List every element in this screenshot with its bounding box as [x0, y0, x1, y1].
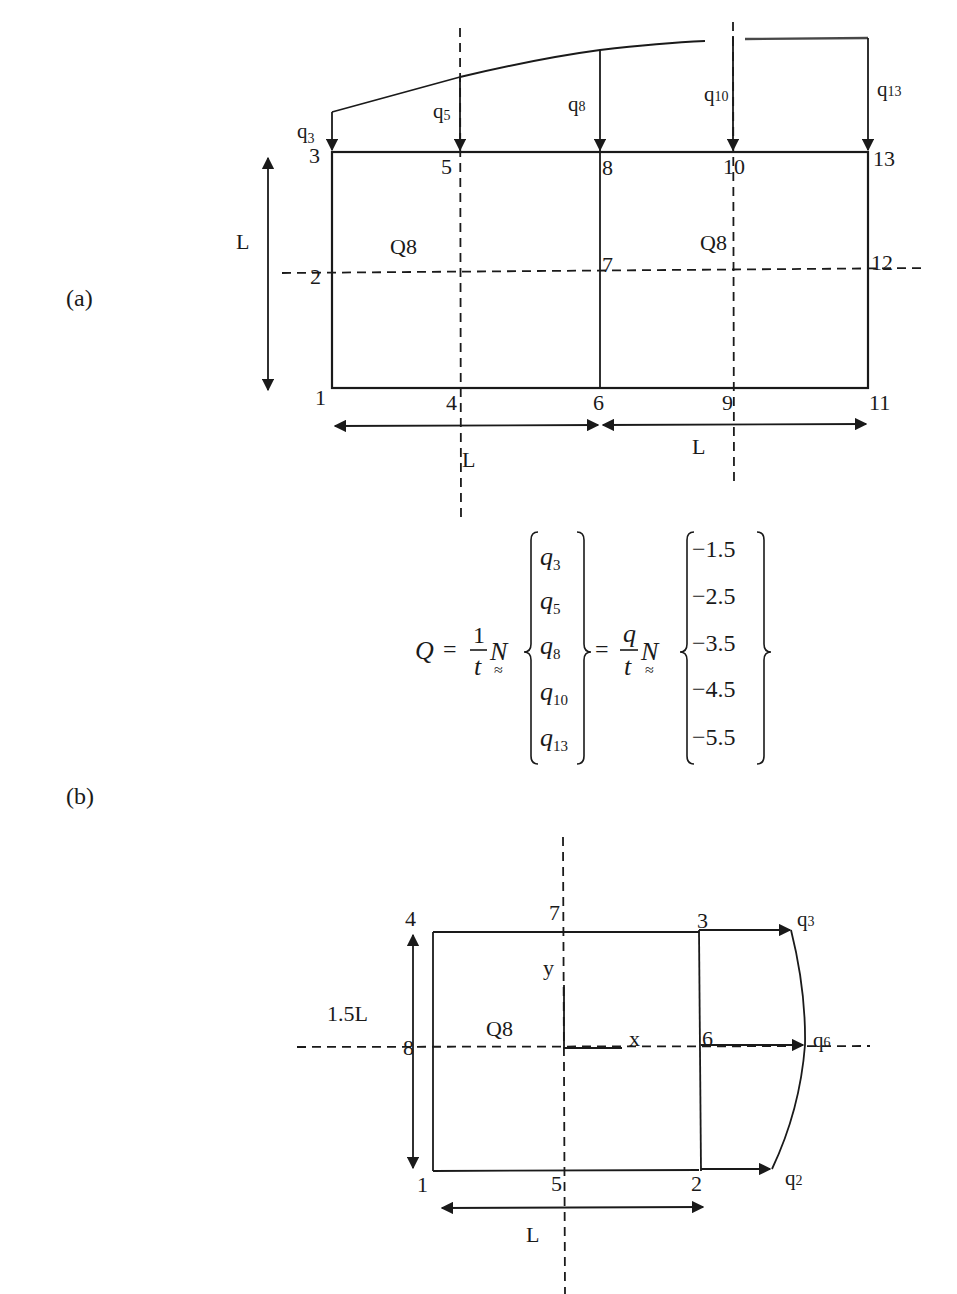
element-label-b: Q8 [486, 1016, 513, 1041]
equation-tensor-mark-1: ≈ [494, 661, 503, 678]
equation-frac1-numerator: 1 [473, 622, 485, 648]
element-label-right: Q8 [700, 230, 727, 255]
node-label-1: 1 [315, 385, 326, 410]
element-edge-right-b [699, 930, 701, 1171]
vector2-right-brace [757, 532, 771, 764]
part-b-label: (b) [66, 783, 94, 809]
dimension-arrow-width-right-a [603, 424, 866, 425]
dimension-label-height-b: 1.5L [327, 1001, 368, 1026]
node-label-6: 6 [593, 390, 604, 415]
vector1-entry: q8 [540, 631, 561, 662]
dimension-arrow-width-b [442, 1207, 703, 1208]
axis-label-y: y [543, 955, 554, 980]
vector1-entry: q10 [540, 677, 568, 708]
node-label-5-b: 5 [551, 1171, 562, 1196]
node-label-3-b: 3 [697, 908, 708, 933]
node-label-7-b: 7 [549, 900, 560, 925]
part-a-diagram: (a) q3 q5 q8 q10 q13 3 5 8 10 13 2 7 12 … [66, 22, 925, 522]
vector2-entry: −2.5 [692, 583, 736, 609]
part-b-diagram: (b) y x q3 q6 q2 4 7 3 8 6 1 5 2 Q8 [66, 783, 870, 1294]
node-label-6-b: 6 [702, 1026, 713, 1051]
load-vector-equation: Q = 1 t N ≈ q3 q5 q8 q10 q13 = q t N ≈ −… [415, 532, 771, 764]
vector1-entry: q3 [540, 542, 561, 573]
equation-equals-1: = [443, 636, 457, 662]
node-label-1-b: 1 [417, 1172, 428, 1197]
node-label-11: 11 [869, 390, 890, 415]
load-distribution-curve-b [772, 930, 805, 1169]
load-label-q3: q3 [297, 119, 315, 146]
node-label-4-b: 4 [405, 906, 416, 931]
vector2-entry: −1.5 [692, 536, 736, 562]
load-distribution-curve-faded [745, 38, 868, 39]
dimension-arrow-width-left-a [335, 425, 598, 426]
load-distribution-curve [332, 41, 705, 112]
element-edge-bottom-b [433, 1170, 699, 1171]
node-label-3: 3 [309, 143, 320, 168]
equation-frac2-denominator: t [624, 652, 632, 681]
dashed-midline-horizontal-b [297, 1046, 870, 1047]
node-label-13: 13 [873, 146, 895, 171]
load-label-q2-b: q2 [785, 1166, 803, 1190]
equation-equals-2: = [595, 636, 609, 662]
load-label-q5: q5 [433, 99, 451, 123]
part-a-label: (a) [66, 285, 93, 311]
vector1-left-brace [524, 532, 538, 764]
figure-canvas: (a) q3 q5 q8 q10 q13 3 5 8 10 13 2 7 12 … [0, 0, 957, 1294]
node-label-8: 8 [602, 155, 613, 180]
load-label-q8: q8 [568, 92, 586, 116]
vector2-entry: −4.5 [692, 676, 736, 702]
axis-label-x: x [629, 1026, 640, 1051]
node-label-9: 9 [722, 390, 733, 415]
dimension-label-width-right-a: L [692, 434, 705, 459]
node-label-12: 12 [871, 250, 893, 275]
dimension-label-width-b: L [526, 1222, 539, 1247]
equation-frac1-denominator: t [474, 652, 482, 681]
vector1-entry: q5 [540, 586, 561, 617]
node-label-2: 2 [310, 264, 321, 289]
load-label-q13: q13 [877, 77, 902, 101]
node-label-10: 10 [723, 154, 745, 179]
vector1-entry: q13 [540, 723, 568, 754]
element-label-left: Q8 [390, 234, 417, 259]
vector2-entry: −5.5 [692, 724, 736, 750]
dimension-label-height-a: L [236, 229, 249, 254]
load-label-q6-b: q6 [813, 1028, 831, 1052]
node-label-4: 4 [446, 390, 457, 415]
dimension-label-width-left-a: L [462, 447, 475, 472]
node-label-2-b: 2 [691, 1171, 702, 1196]
node-label-7: 7 [602, 252, 613, 277]
equation-tensor-mark-2: ≈ [645, 661, 654, 678]
vector1-right-brace [577, 532, 591, 764]
load-label-q3-b: q3 [797, 907, 815, 931]
dashed-midline-vertical-b [563, 837, 565, 1294]
equation-lhs: Q [415, 636, 434, 665]
node-label-5: 5 [441, 154, 452, 179]
load-label-q10: q10 [704, 82, 729, 106]
vector2-entry: −3.5 [692, 630, 736, 656]
equation-frac2-numerator: q [623, 619, 636, 648]
